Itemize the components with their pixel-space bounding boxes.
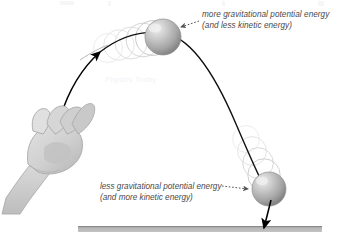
svg-text:Physics Today: Physics Today [105, 75, 157, 84]
annotation-top-line2: (and less kinetic energy) [202, 21, 292, 30]
hand [2, 104, 95, 214]
annotation-bottom: less gravitational potential energy (and… [100, 182, 248, 202]
annotation-top-line1: more gravitational potential energy [202, 10, 330, 19]
annotation-top: more gravitational potential energy (and… [181, 10, 330, 30]
top-cropped-text [0, 0, 339, 7]
ball-apex [145, 19, 181, 55]
annotation-bottom-line1: less gravitational potential energy [100, 182, 222, 191]
background-watermark: Physics Today [105, 75, 157, 84]
ground-surface [78, 226, 322, 232]
diagram-canvas: Physics Today [0, 0, 339, 242]
ball-descending [252, 172, 286, 206]
annotation-bottom-line2: (and more kinetic energy) [100, 193, 193, 202]
